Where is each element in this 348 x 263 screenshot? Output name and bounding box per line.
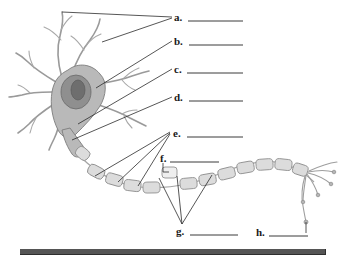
label-b-group[interactable]: b. xyxy=(174,35,243,47)
label-b-text: b. xyxy=(174,35,183,47)
label-d-text: d. xyxy=(174,91,183,103)
label-c-text: c. xyxy=(174,63,182,75)
label-g-group[interactable]: g. xyxy=(176,225,238,237)
label-g-text: g. xyxy=(176,225,185,237)
label-h-text: h. xyxy=(256,226,265,238)
leader-line-e1 xyxy=(95,132,170,176)
label-h-group[interactable]: h. xyxy=(256,226,308,238)
neuron-diagram: a. b. c. d. e. f. g. h. xyxy=(0,0,348,263)
myelin-sheath-segments xyxy=(74,145,309,193)
leader-line-a2 xyxy=(102,18,172,42)
bottom-rule xyxy=(20,249,326,255)
leader-lines xyxy=(62,12,306,233)
label-e-group[interactable]: e. xyxy=(173,127,243,139)
leader-line-a xyxy=(62,12,172,17)
label-d-group[interactable]: d. xyxy=(174,91,243,103)
label-c-group[interactable]: c. xyxy=(174,63,243,75)
worksheet-page: a. b. c. d. e. f. g. h. xyxy=(0,0,348,263)
label-a-group[interactable]: a. xyxy=(174,11,243,23)
node-of-ranvier-segment xyxy=(162,167,177,178)
nucleus xyxy=(61,75,91,109)
label-f-group[interactable]: f. xyxy=(160,152,219,164)
label-f-text: f. xyxy=(160,152,167,164)
label-a-text: a. xyxy=(174,11,183,23)
axon-with-myelin xyxy=(74,145,314,193)
label-e-text: e. xyxy=(173,127,181,139)
leader-line-b xyxy=(96,41,172,88)
